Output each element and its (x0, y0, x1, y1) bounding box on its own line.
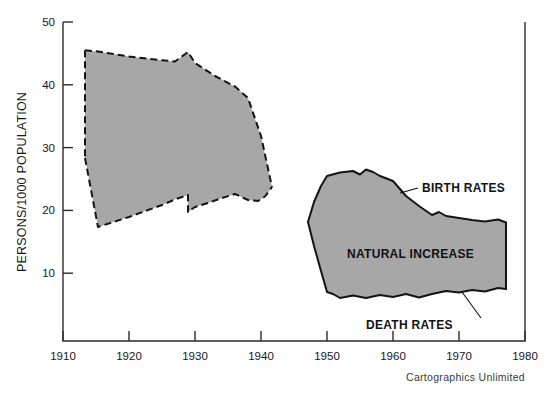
early-natural-increase-fill (85, 50, 272, 227)
y-tick-label: 50 (42, 16, 55, 28)
x-tick-label: 1950 (314, 350, 340, 362)
x-axis-tick-labels: 1910 1920 1930 1940 1950 1960 1970 1980 (50, 350, 538, 362)
early-period-band (85, 50, 272, 227)
credit-text: Cartographics Unlimited (406, 371, 525, 383)
chart-container: 50 40 30 20 10 PERSONS/1000 POPULATION 1… (0, 0, 551, 394)
x-tick-label: 1930 (182, 350, 208, 362)
y-axis-title: PERSONS/1000 POPULATION (15, 92, 29, 272)
x-tick-label: 1970 (446, 350, 472, 362)
y-axis-tick-labels: 50 40 30 20 10 (42, 16, 55, 279)
x-tick-label: 1920 (116, 350, 142, 362)
y-tick-label: 40 (42, 79, 55, 91)
y-tick-label: 20 (42, 204, 55, 216)
x-tick-label: 1940 (248, 350, 274, 362)
y-tick-label: 10 (42, 267, 55, 279)
y-tick-label: 30 (42, 142, 55, 154)
x-tick-label: 1910 (50, 350, 76, 362)
population-rates-area-chart: 50 40 30 20 10 PERSONS/1000 POPULATION 1… (0, 0, 551, 394)
death-rates-label: DEATH RATES (366, 318, 453, 332)
y-axis-ticks (63, 22, 73, 273)
x-axis-ticks (63, 331, 525, 341)
death-rates-leader-line (462, 292, 481, 318)
x-tick-label: 1980 (512, 350, 538, 362)
natural-increase-label: NATURAL INCREASE (347, 247, 474, 261)
birth-rates-leader-line (400, 188, 418, 193)
birth-rates-label: BIRTH RATES (422, 181, 505, 195)
x-tick-label: 1960 (380, 350, 406, 362)
